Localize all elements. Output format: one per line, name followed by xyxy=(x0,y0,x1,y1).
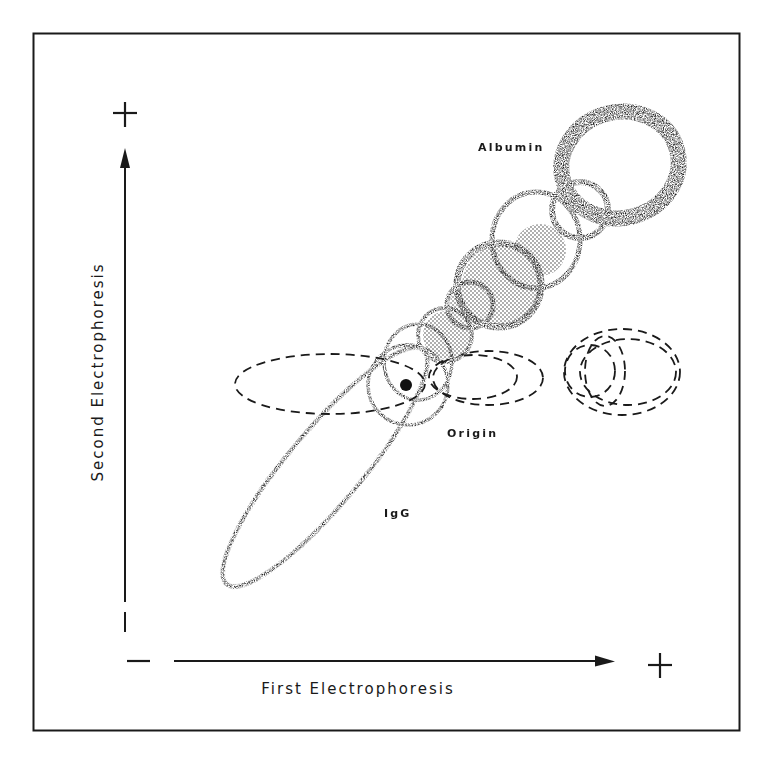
y-axis-plus-icon xyxy=(113,102,137,127)
dashed-ellipse-right-outer xyxy=(564,329,680,415)
origin-label: Origin xyxy=(447,427,498,440)
x-axis-arrowhead-icon xyxy=(595,656,615,667)
electrophoresis-diagram: Second Electrophoresis First Electrophor… xyxy=(0,0,767,760)
x-axis xyxy=(127,653,672,678)
igg-label: IgG xyxy=(384,507,412,520)
origin-dot xyxy=(400,379,412,391)
x-axis-plus-icon xyxy=(648,653,672,678)
y-axis-label: Second Electrophoresis xyxy=(89,262,107,481)
dashed-ellipse-right-mid xyxy=(580,339,676,405)
y-axis-arrowhead-icon xyxy=(120,148,130,168)
dashed-ellipse-right-inner xyxy=(585,336,625,406)
igg-arc xyxy=(198,326,451,608)
x-axis-label: First Electrophoresis xyxy=(261,680,454,698)
figure-frame xyxy=(34,34,740,731)
albumin-label: Albumin xyxy=(478,141,544,154)
y-axis xyxy=(113,102,137,632)
